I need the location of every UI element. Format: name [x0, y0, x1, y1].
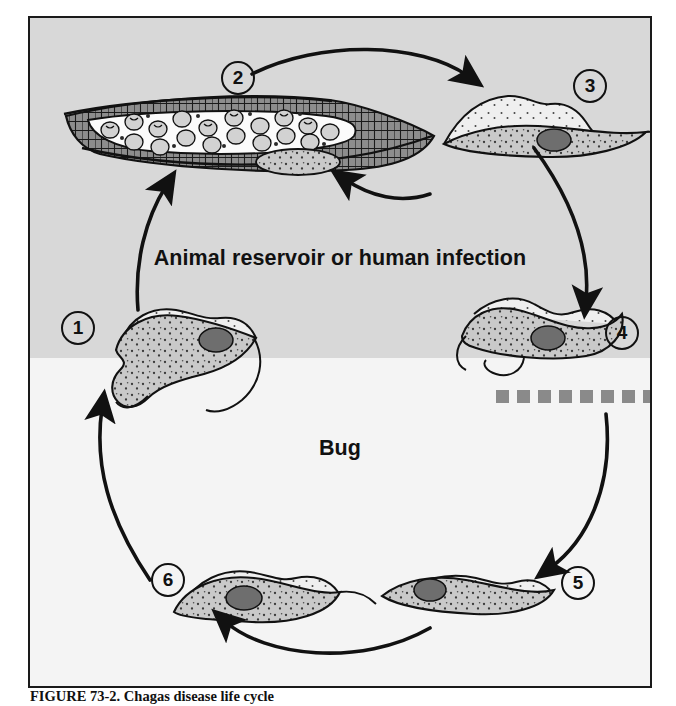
life-cycle-diagram	[30, 18, 650, 686]
stage-number-1: 1	[61, 311, 95, 345]
stage-number-3: 3	[573, 69, 607, 103]
figure-caption: FIGURE 73-2. Chagas disease life cycle	[30, 688, 650, 705]
stage-1-trypomastigote-illustration	[112, 309, 260, 411]
arrow-5-to-6	[226, 622, 430, 653]
stage-number-5: 5	[561, 566, 595, 600]
stage-6-metacyclic-trypomastigote-illustration	[174, 571, 376, 622]
arrow-3-to-4	[534, 148, 587, 300]
dashed-separator-icon	[496, 390, 650, 403]
bug-zone-label: Bug	[240, 436, 440, 461]
host-zone-label: Animal reservoir or human infection	[140, 246, 540, 271]
stage-2-muscle-cell-illustration	[64, 96, 434, 175]
arrow-3-to-2	[346, 180, 430, 198]
arrow-4-to-5	[550, 414, 607, 568]
stage-4-trypomastigote-illustration	[457, 299, 623, 376]
arrow-2-to-3	[252, 49, 468, 76]
stage-number-2: 2	[221, 61, 255, 95]
figure-frame: Animal reservoir or human infection Bug …	[28, 16, 652, 688]
stage-number-4: 4	[605, 316, 639, 350]
stage-3-trypomastigote-illustration	[444, 96, 650, 157]
stage-5-epimastigote-illustration	[382, 576, 554, 615]
stage-number-6: 6	[151, 563, 185, 597]
arrow-6-to-1	[100, 408, 150, 580]
